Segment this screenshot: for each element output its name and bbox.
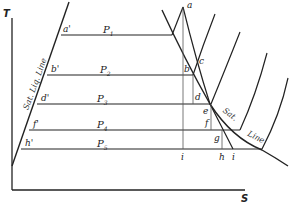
point-label-g: g <box>214 134 220 143</box>
superheat-p1 <box>172 7 183 35</box>
sat-liquid-line <box>12 2 69 166</box>
pressure-label-p1: P1 <box>103 25 114 37</box>
superheat-p4 <box>240 53 267 130</box>
point-label-c: c <box>199 57 204 66</box>
pressure-label-p5: P5 <box>97 139 108 151</box>
point-label-h-prime: h' <box>25 139 33 148</box>
t-axis-label: T <box>3 8 10 19</box>
superheat-p5 <box>262 78 288 149</box>
sat-vapor-line <box>162 10 288 166</box>
pressure-label-p3: P3 <box>97 94 108 106</box>
point-label-d: d <box>195 93 201 102</box>
point-label-e: e <box>203 107 208 116</box>
ts-diagram-canvas <box>0 0 291 207</box>
point-label-b-prime: b' <box>51 65 59 74</box>
pressure-label-p4: P4 <box>97 120 108 132</box>
point-label-f: f <box>205 119 208 128</box>
point-label-h: h <box>219 153 225 162</box>
point-label-a-prime: a' <box>63 25 71 34</box>
point-label-b: b <box>184 65 190 74</box>
pressure-label-p2: P2 <box>100 65 111 77</box>
point-label-f-prime: f' <box>33 120 39 129</box>
point-label-d-prime: d' <box>41 94 49 103</box>
superheat-p3 <box>211 32 240 104</box>
s-axis-label: S <box>241 193 248 204</box>
point-label-i-left: i <box>181 153 184 162</box>
point-label-i-right: i <box>232 153 235 162</box>
point-label-a: a <box>187 1 192 10</box>
